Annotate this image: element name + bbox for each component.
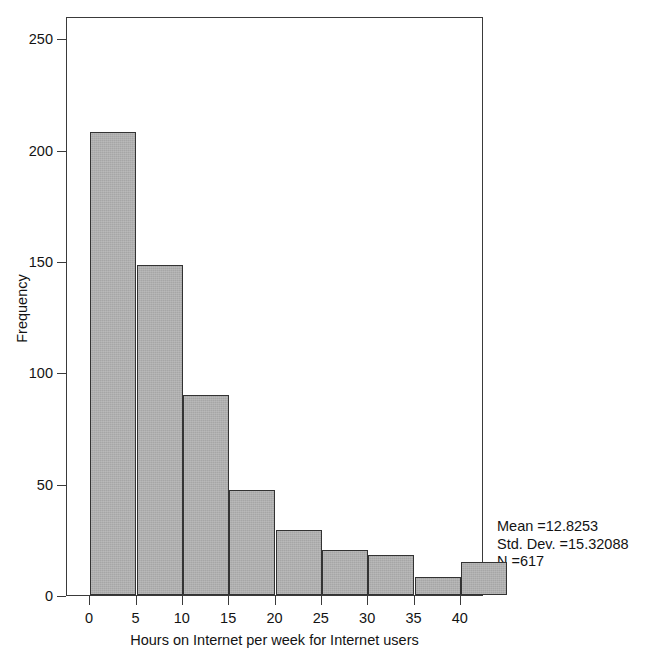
histogram-bars	[67, 18, 482, 595]
x-axis-tick-label: 35	[392, 610, 436, 626]
x-axis-tick	[367, 596, 368, 605]
y-axis-title: Frequency	[14, 254, 31, 364]
y-axis-tick	[57, 262, 66, 263]
y-axis-tick-label: 200	[7, 144, 53, 159]
stat-std-dev: Std. Dev. =15.32088	[497, 536, 629, 554]
statistics-annotation: Mean =12.8253 Std. Dev. =15.32088 N =617	[497, 518, 629, 571]
histogram-bar	[229, 490, 275, 595]
histogram-bar	[90, 132, 136, 595]
y-axis-tick	[57, 596, 66, 597]
x-axis-tick-label: 5	[114, 610, 158, 626]
x-axis-tick	[228, 596, 229, 605]
y-axis-tick-label: 50	[7, 478, 53, 493]
y-axis-tick	[57, 373, 66, 374]
x-axis-tick	[275, 596, 276, 605]
y-axis-tick-label: 250	[7, 32, 53, 47]
x-axis-tick	[460, 596, 461, 605]
x-axis-tick	[414, 596, 415, 605]
y-axis-tick	[57, 151, 66, 152]
x-axis-tick	[321, 596, 322, 605]
x-axis-tick-label: 30	[345, 610, 389, 626]
histogram-bar	[322, 550, 368, 595]
histogram-bar	[415, 577, 461, 595]
y-axis-tick-label: 0	[7, 589, 53, 604]
y-axis-tick-label: 100	[7, 366, 53, 381]
x-axis-tick-label: 10	[160, 610, 204, 626]
x-axis-tick-label: 20	[253, 610, 297, 626]
x-axis-tick-label: 15	[206, 610, 250, 626]
stat-n: N =617	[497, 553, 629, 571]
y-axis-tick	[57, 485, 66, 486]
histogram-bar	[183, 395, 229, 595]
x-axis-tick	[89, 596, 90, 605]
histogram-bar	[368, 555, 414, 595]
histogram-figure: 050100150200250 Frequency Hours on Inter…	[0, 0, 657, 660]
stat-mean: Mean =12.8253	[497, 518, 629, 536]
x-axis-tick-label: 25	[299, 610, 343, 626]
x-axis-title: Hours on Internet per week for Internet …	[66, 632, 483, 649]
x-axis-tick-label: 0	[67, 610, 111, 626]
histogram-bar	[276, 530, 322, 595]
histogram-bar	[461, 562, 507, 595]
plot-area	[66, 17, 483, 596]
y-axis-tick	[57, 39, 66, 40]
x-axis-tick	[136, 596, 137, 605]
x-axis-tick-label: 40	[438, 610, 482, 626]
x-axis-tick	[182, 596, 183, 605]
histogram-bar	[137, 265, 183, 595]
